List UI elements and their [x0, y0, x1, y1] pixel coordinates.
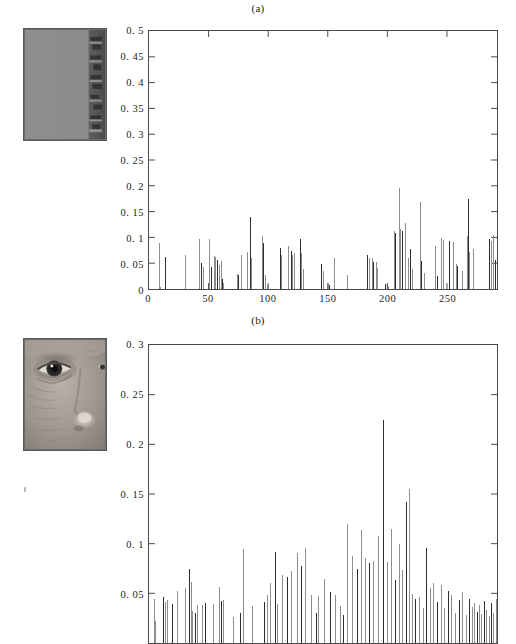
- panel-b-label: (b): [0, 314, 516, 326]
- y-tick-label: 0. 05: [121, 589, 145, 600]
- x-tick-label: 150: [319, 293, 336, 304]
- panel-b: (b): [0, 312, 516, 597]
- y-axis-ticks-b: 0. 050. 10. 150. 20. 250. 3: [116, 344, 144, 644]
- thumbnail-b-graphic: [24, 339, 106, 450]
- plot-area-b: [148, 344, 498, 644]
- y-tick-label: 0. 5: [126, 25, 144, 36]
- y-tick-label: 0. 1: [126, 233, 144, 244]
- y-tick-label: 0. 15: [121, 489, 145, 500]
- panel-a: (a): [0, 0, 516, 312]
- stem-plot-b: [149, 345, 497, 643]
- panel-a-label: (a): [0, 2, 516, 14]
- x-tick-label: 250: [439, 293, 456, 304]
- y-tick-label: 0. 45: [121, 51, 145, 62]
- y-tick-label: 0. 4: [126, 77, 144, 88]
- y-tick-label: 0. 25: [121, 389, 145, 400]
- y-tick-label: 0: [138, 285, 144, 296]
- y-tick-label: 0. 2: [126, 181, 144, 192]
- x-tick-label: 100: [259, 293, 276, 304]
- y-tick-label: 0. 25: [121, 155, 145, 166]
- face-eye-region-thumbnail: [23, 338, 107, 451]
- y-tick-label: 0. 3: [126, 129, 144, 140]
- x-tick-label: 200: [379, 293, 396, 304]
- x-axis-ticks-a: 050100150200250: [148, 293, 498, 311]
- scan-artifact-speck: [24, 487, 26, 492]
- stem-plot-a: [149, 31, 497, 289]
- thumbnail-a-graphic: [24, 29, 106, 140]
- y-tick-label: 0. 2: [126, 439, 144, 450]
- y-tick-label: 0. 15: [121, 207, 145, 218]
- y-tick-label: 0. 3: [126, 339, 144, 350]
- y-tick-label: 0. 35: [121, 103, 145, 114]
- y-tick-label: 0. 05: [121, 259, 145, 270]
- x-tick-label: 0: [145, 293, 151, 304]
- y-axis-ticks-a: 00. 050. 10. 150. 20. 250. 30. 350. 40. …: [116, 30, 144, 290]
- plot-area-a: [148, 30, 498, 290]
- flat-gray-patch-thumbnail: [23, 28, 107, 141]
- x-tick-label: 50: [202, 293, 214, 304]
- y-tick-label: 0. 1: [126, 539, 144, 550]
